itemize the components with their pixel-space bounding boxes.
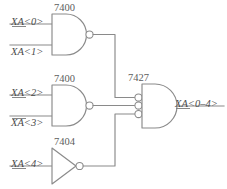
schematic-canvas: 7400 XA<0> XA<1> 7400 XA<2> XA<3> 7404 X… bbox=[0, 0, 227, 189]
nor-input-bubble-1 bbox=[135, 102, 142, 109]
circuit-schematic: 7400 XA<0> XA<1> 7400 XA<2> XA<3> 7404 X… bbox=[0, 0, 227, 189]
wire-nand1-output bbox=[93, 35, 135, 98]
nor-output-label: XA<0–4> bbox=[174, 98, 218, 109]
nand2-output-bubble bbox=[86, 102, 93, 109]
nand1-input0-label: XA<0> bbox=[10, 16, 43, 27]
nand2-input1-label: XA<3> bbox=[10, 117, 43, 128]
inverter-chip-label: 7404 bbox=[54, 136, 76, 147]
nand1-output-bubble bbox=[86, 31, 93, 38]
nand2-body bbox=[52, 85, 86, 126]
nor-input-bubble-2 bbox=[135, 110, 142, 117]
nand1-body bbox=[52, 14, 86, 55]
inverter-output-bubble bbox=[76, 162, 83, 169]
inverter-input0-label: XA<4> bbox=[10, 158, 43, 169]
inverter-body bbox=[52, 148, 76, 184]
nor-body bbox=[142, 84, 177, 128]
wire-inverter-output bbox=[83, 114, 135, 166]
nor-input-bubble-0 bbox=[135, 94, 142, 101]
nand1-chip-label: 7400 bbox=[54, 2, 75, 13]
nor-chip-label: 7427 bbox=[128, 72, 149, 83]
nand1-input1-label: XA<1> bbox=[10, 46, 43, 57]
nand2-input0-label: XA<2> bbox=[10, 87, 43, 98]
nand2-chip-label: 7400 bbox=[54, 73, 75, 84]
